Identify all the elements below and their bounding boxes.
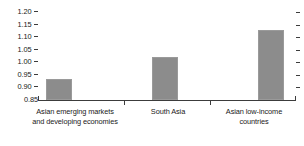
x-axis-label-line: and developing economies [18, 117, 132, 127]
y-axis-tick-label: 1.20 [18, 7, 32, 17]
y-axis-tick: 0.95 [18, 70, 38, 80]
bar-asian-low-income-countries[interactable] [258, 30, 284, 100]
y-axis-tick: 0.85 [24, 95, 38, 105]
right-axis-ticks [296, 12, 302, 100]
right-axis-tick-mark [296, 87, 300, 88]
x-axis-category-separator [210, 101, 211, 105]
y-axis-tick-label: 0.95 [18, 70, 32, 80]
x-axis-label-line: Asian emerging markets [18, 107, 132, 117]
right-axis-tick-mark [296, 25, 300, 26]
x-axis-label-asian-emerging-markets: Asian emerging markets and developing ec… [18, 107, 132, 126]
y-axis-tick-label: 0.90 [18, 82, 32, 92]
y-axis-tick: 1.05 [18, 45, 38, 55]
y-axis-tick: 1.20 [18, 7, 38, 17]
x-axis-category-separator [124, 101, 125, 105]
y-axis-tick: 1.10 [18, 32, 38, 42]
right-axis-tick-mark [296, 37, 300, 38]
y-axis-tick-label: 1.15 [18, 20, 32, 30]
y-axis: 1.20 1.15 1.10 1.05 1.00 0.95 0.90 0.85 [0, 0, 38, 100]
y-axis-tick: 0.90 [18, 82, 38, 92]
x-axis-left-cap [38, 96, 39, 101]
x-axis-right-cap [295, 96, 296, 101]
y-axis-tick: 1.00 [18, 57, 38, 67]
x-axis-line [38, 100, 296, 101]
y-axis-tick-label: 1.00 [18, 57, 32, 67]
bar-chart: 1.20 1.15 1.10 1.05 1.00 0.95 0.90 0.85 [0, 0, 304, 146]
y-axis-tick: 1.15 [18, 20, 38, 30]
x-axis-label-line: Asian low-income [212, 107, 296, 117]
x-axis-label-south-asia: South Asia [126, 107, 210, 117]
right-axis-tick-mark [296, 12, 300, 13]
bar-asian-emerging-markets[interactable] [46, 79, 72, 100]
x-axis-label-asian-low-income-countries: Asian low-income countries [212, 107, 296, 126]
y-axis-tick-label: 0.85 [24, 95, 38, 105]
right-axis-tick-mark [296, 75, 300, 76]
plot-area [38, 12, 292, 100]
y-axis-tick-label: 1.10 [18, 32, 32, 42]
x-axis-label-line: South Asia [126, 107, 210, 117]
x-axis-label-line: countries [212, 117, 296, 127]
right-axis-tick-mark [296, 62, 300, 63]
right-axis-tick-mark [296, 50, 300, 51]
y-axis-tick-label: 1.05 [18, 45, 32, 55]
bar-south-asia[interactable] [152, 57, 178, 100]
